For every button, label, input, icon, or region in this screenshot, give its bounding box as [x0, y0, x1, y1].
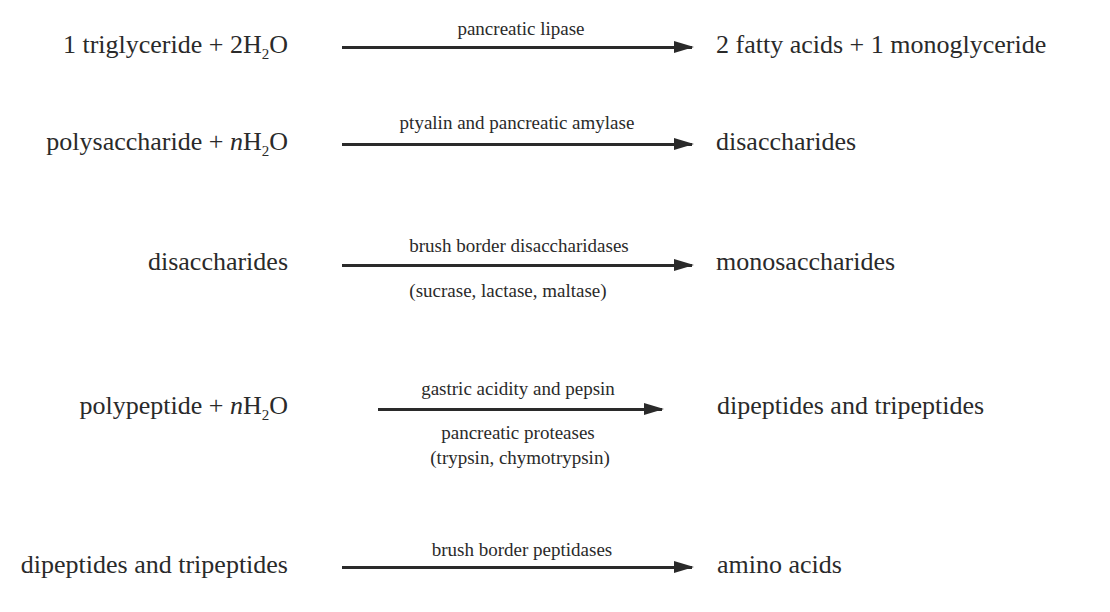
reaction-arrow-icon	[378, 408, 662, 411]
reactant-3: disaccharides	[148, 249, 288, 275]
reactant-text: H	[243, 127, 262, 156]
reaction-arrow-icon	[342, 46, 692, 49]
product-3: monosaccharides	[716, 249, 895, 275]
enzyme-label: pancreatic lipase	[457, 19, 584, 38]
reactant-text: 1 triglyceride + 2H	[63, 30, 262, 59]
reactant-suffix: O	[269, 30, 288, 59]
reactant-suffix: O	[269, 127, 288, 156]
reactant-1: 1 triglyceride + 2H2O	[63, 32, 288, 58]
enzyme-sublabel: pancreatic proteases	[441, 423, 595, 442]
reactant-4: polypeptide + nH2O	[80, 393, 288, 419]
reaction-arrow-icon	[342, 264, 692, 267]
enzyme-label: gastric acidity and pepsin	[421, 379, 615, 398]
reactant-text: polypeptide +	[80, 391, 230, 420]
enzyme-label: brush border disaccharidases	[409, 236, 628, 255]
enzyme-label: brush border peptidases	[432, 540, 612, 559]
product-4: dipeptides and tripeptides	[717, 393, 984, 419]
reactant-text: polysaccharide +	[46, 127, 230, 156]
reactant-2: polysaccharide + nH2O	[46, 129, 288, 155]
product-5: amino acids	[717, 552, 842, 578]
enzyme-sublabel: (trypsin, chymotrypsin)	[430, 448, 609, 467]
product-2: disaccharides	[716, 129, 856, 155]
coefficient: n	[230, 127, 243, 156]
reaction-arrow-icon	[342, 143, 692, 146]
coefficient: n	[230, 391, 243, 420]
enzyme-sublabel: (sucrase, lactase, maltase)	[409, 281, 606, 300]
enzyme-label: ptyalin and pancreatic amylase	[400, 113, 635, 132]
reactant-5: dipeptides and tripeptides	[21, 552, 288, 578]
reactant-suffix: O	[269, 391, 288, 420]
reaction-arrow-icon	[342, 566, 692, 569]
product-1: 2 fatty acids + 1 monoglyceride	[716, 32, 1046, 58]
reactant-text: H	[243, 391, 262, 420]
